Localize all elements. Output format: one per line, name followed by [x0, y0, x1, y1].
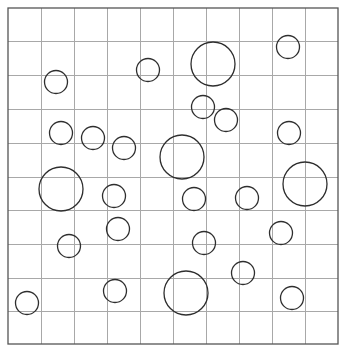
grid-circle-diagram [0, 0, 345, 350]
